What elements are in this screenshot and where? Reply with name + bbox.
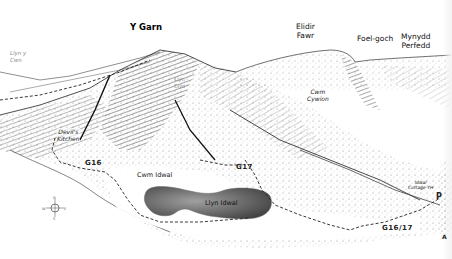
place-label-llyn-y-cwn: Llyn y Cwn bbox=[10, 50, 26, 64]
compass-east-label: E bbox=[64, 206, 66, 213]
peak-label-elidir-fawr: Elidir Fawr bbox=[296, 22, 315, 40]
llyn-y-cwn-line2: Cwn bbox=[10, 57, 26, 64]
compass-west-label: W bbox=[42, 206, 45, 213]
route-label-g17: G17 bbox=[236, 164, 253, 171]
devils-kitchen-line1: Devil's bbox=[57, 128, 80, 135]
llyn-clyd-line2: Clyd bbox=[174, 83, 185, 90]
compass-north-label: N bbox=[53, 195, 56, 202]
peak-label-y-garn: Y Garn bbox=[130, 23, 162, 32]
mynydd-perfedd-line2: Perfedd bbox=[401, 41, 431, 50]
place-label-llyn-clyd: Llyn Clyd bbox=[174, 76, 185, 90]
elidir-fawr-line1: Elidir bbox=[296, 22, 315, 31]
parking-icon: P bbox=[436, 193, 442, 200]
mynydd-perfedd-line1: Mynydd bbox=[401, 32, 431, 41]
a-road-marker: A bbox=[442, 233, 447, 240]
route-label-g16: G16 bbox=[85, 160, 102, 167]
cwm-cywion-line1: Cwm bbox=[307, 88, 329, 95]
peak-label-mynydd-perfedd: Mynydd Perfedd bbox=[401, 32, 431, 50]
right-edge-fade bbox=[442, 0, 452, 259]
peak-label-foel-goch: Foel-goch bbox=[357, 34, 393, 43]
devils-kitchen-line2: Kitchen bbox=[57, 135, 80, 142]
elidir-fawr-line2: Fawr bbox=[296, 31, 315, 40]
place-label-cwm-idwal: Cwm Idwal bbox=[137, 172, 172, 179]
llyn-clyd-line1: Llyn bbox=[174, 76, 185, 83]
place-label-idwal-cottage-yh: Idwal Cottage YH bbox=[408, 180, 433, 190]
place-label-devils-kitchen: Devil's Kitchen bbox=[57, 128, 80, 142]
idwal-cottage-line2: Cottage YH bbox=[408, 185, 433, 190]
place-label-llyn-idwal: Llyn Idwal bbox=[205, 200, 238, 207]
llyn-y-cwn-line1: Llyn y bbox=[10, 50, 26, 57]
place-label-cwm-cywion: Cwm Cywion bbox=[307, 88, 329, 102]
compass-south-label: S bbox=[53, 216, 55, 223]
cwm-cywion-line2: Cywion bbox=[307, 95, 329, 102]
route-label-g16-17: G16/17 bbox=[382, 225, 413, 232]
